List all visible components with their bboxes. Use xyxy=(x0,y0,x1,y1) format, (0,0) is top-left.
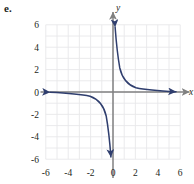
y-tick-label: 4 xyxy=(34,43,39,53)
x-tick-label: 0 xyxy=(111,168,116,178)
x-tick-label: -6 xyxy=(42,168,50,178)
y-tick-label: 6 xyxy=(34,20,39,30)
y-tick-label: 2 xyxy=(34,65,39,75)
graph-figure: e. xyxy=(0,0,194,184)
x-axis-label: x xyxy=(188,87,194,97)
axes xyxy=(41,12,190,178)
x-tick-label: 2 xyxy=(133,168,138,178)
y-tick-label: -4 xyxy=(31,132,39,142)
y-axis-label: y xyxy=(115,3,121,13)
x-tick-labels: -6 -4 -2 0 2 4 6 xyxy=(42,168,183,178)
x-tick-label: -4 xyxy=(64,168,72,178)
y-tick-label: -6 xyxy=(31,155,39,165)
coordinate-plane-svg: y x 6 4 2 0 -2 -4 -6 -6 -4 -2 0 2 4 6 xyxy=(0,0,194,184)
y-tick-label: 0 xyxy=(34,88,39,98)
x-tick-label: 4 xyxy=(155,168,160,178)
x-tick-label: 6 xyxy=(178,168,183,178)
x-tick-label: -2 xyxy=(87,168,95,178)
y-tick-labels: 6 4 2 0 -2 -4 -6 xyxy=(31,20,39,164)
y-tick-label: -2 xyxy=(31,110,39,120)
part-label: e. xyxy=(4,2,12,14)
